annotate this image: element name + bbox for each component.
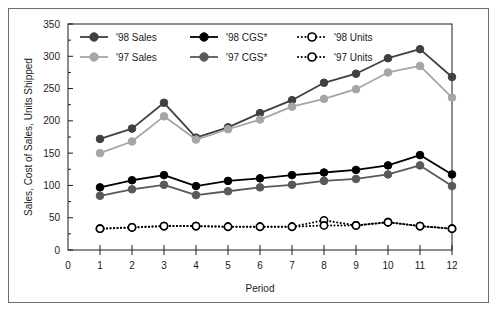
data-point-marker xyxy=(128,224,135,231)
legend-item: '97 Sales xyxy=(80,52,157,63)
data-point-marker xyxy=(384,54,392,62)
data-point-marker xyxy=(96,225,103,232)
x-tick-label: 5 xyxy=(225,260,231,271)
legend-item: '97 Units xyxy=(298,52,373,63)
data-point-marker xyxy=(448,94,456,102)
data-point-marker xyxy=(384,171,392,179)
data-point-marker xyxy=(416,151,424,159)
series-line xyxy=(100,66,452,153)
legend-marker-swatch xyxy=(200,33,208,41)
y-tick-label: 50 xyxy=(49,212,61,223)
legend-label: '97 Units xyxy=(334,52,373,63)
data-point-marker xyxy=(320,169,328,177)
data-point-marker xyxy=(448,182,456,190)
legend-marker-swatch xyxy=(200,53,208,61)
data-point-marker xyxy=(416,162,424,170)
data-point-marker xyxy=(320,95,328,103)
data-point-marker xyxy=(128,176,136,184)
chart-legend: '98 Sales'98 CGS*'98 Units'97 Sales'97 C… xyxy=(80,32,373,63)
legend-marker-swatch xyxy=(90,53,98,61)
data-point-marker xyxy=(448,73,456,81)
y-tick-label: 250 xyxy=(43,83,60,94)
data-point-marker xyxy=(96,184,104,192)
legend-label: '97 Sales xyxy=(116,52,157,63)
series-line xyxy=(100,165,452,195)
data-point-marker xyxy=(256,116,264,124)
x-tick-label: 9 xyxy=(353,260,359,271)
x-axis-tick-labels: 0123456789101112 xyxy=(65,260,458,271)
legend-label: '98 CGS* xyxy=(226,32,267,43)
y-tick-label: 200 xyxy=(43,115,60,126)
data-point-marker xyxy=(288,181,296,189)
data-point-marker xyxy=(288,171,296,179)
data-point-marker xyxy=(384,162,392,170)
data-point-marker xyxy=(96,192,104,200)
data-point-marker xyxy=(288,223,295,230)
chart-figure: 0123456789101112 050100150200250300350 '… xyxy=(0,0,499,313)
y-axis-title: Sales, Cost of Sales, Units Shipped xyxy=(23,58,34,216)
data-point-marker xyxy=(384,69,392,77)
data-series-group xyxy=(96,45,456,232)
data-point-marker xyxy=(352,222,359,229)
data-point-marker xyxy=(256,223,263,230)
legend-item: '98 Units xyxy=(298,32,373,43)
y-tick-label: 350 xyxy=(43,19,60,30)
data-point-marker xyxy=(192,223,199,230)
data-point-marker xyxy=(416,45,424,53)
data-point-marker xyxy=(128,186,136,194)
data-point-marker xyxy=(192,182,200,190)
data-point-marker xyxy=(192,136,200,144)
data-point-marker xyxy=(448,171,456,179)
legend-label: '98 Units xyxy=(334,32,373,43)
data-point-marker xyxy=(320,79,328,87)
line-chart: 0123456789101112 050100150200250300350 '… xyxy=(0,0,499,313)
data-series xyxy=(96,162,456,200)
data-series xyxy=(96,217,455,233)
data-point-marker xyxy=(160,223,167,230)
data-series xyxy=(96,62,456,157)
y-tick-label: 0 xyxy=(54,245,60,256)
data-point-marker xyxy=(288,103,296,111)
legend-item: '98 Sales xyxy=(80,32,157,43)
data-point-marker xyxy=(256,184,264,192)
data-point-marker xyxy=(160,181,168,189)
data-point-marker xyxy=(352,85,360,93)
y-axis-tick-labels: 050100150200250300350 xyxy=(43,19,60,256)
x-tick-label: 7 xyxy=(289,260,295,271)
y-tick-label: 150 xyxy=(43,148,60,159)
data-point-marker xyxy=(352,175,360,183)
data-point-marker xyxy=(384,219,391,226)
x-tick-label: 3 xyxy=(161,260,167,271)
data-point-marker xyxy=(416,223,423,230)
data-point-marker xyxy=(320,177,328,185)
legend-marker-swatch xyxy=(308,33,316,41)
x-tick-label: 8 xyxy=(321,260,327,271)
data-series xyxy=(96,219,455,233)
legend-marker-swatch xyxy=(308,53,316,61)
data-point-marker xyxy=(96,149,104,157)
data-point-marker xyxy=(320,222,327,229)
x-axis-title: Period xyxy=(246,283,275,294)
data-point-marker xyxy=(128,125,136,133)
legend-item: '98 CGS* xyxy=(190,32,267,43)
x-tick-label: 10 xyxy=(382,260,394,271)
data-point-marker xyxy=(192,191,200,199)
data-point-marker xyxy=(352,70,360,78)
legend-label: '98 Sales xyxy=(116,32,157,43)
legend-item: '97 CGS* xyxy=(190,52,267,63)
data-point-marker xyxy=(256,175,264,183)
data-point-marker xyxy=(352,166,360,174)
y-tick-label: 300 xyxy=(43,51,60,62)
data-point-marker xyxy=(224,125,232,133)
data-point-marker xyxy=(224,177,232,185)
legend-label: '97 CGS* xyxy=(226,52,267,63)
data-point-marker xyxy=(224,223,231,230)
data-point-marker xyxy=(128,138,136,146)
x-tick-label: 11 xyxy=(415,260,426,271)
data-point-marker xyxy=(160,171,168,179)
data-point-marker xyxy=(224,187,232,195)
x-tick-label: 2 xyxy=(129,260,135,271)
y-tick-label: 100 xyxy=(43,180,60,191)
data-point-marker xyxy=(96,135,104,143)
x-tick-label: 0 xyxy=(65,260,71,271)
